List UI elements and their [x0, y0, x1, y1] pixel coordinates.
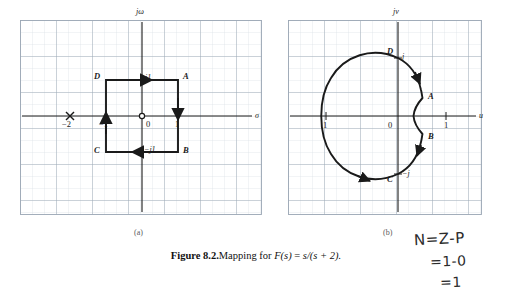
panel-a-tick-one: 1 [175, 120, 179, 129]
panel-b-tick-minus-j: −j [402, 170, 410, 178]
panel-b-point-D: D [387, 47, 393, 56]
panel-b-point-C: C [387, 175, 393, 184]
handwritten-annotation-line3: =1 [440, 274, 462, 291]
figure-caption-function: F(s) [274, 250, 292, 261]
panel-b-point-B: B [428, 132, 434, 141]
panel-b-jv-axis-label: jv [393, 8, 399, 16]
panel-a-point-B: B [183, 146, 189, 155]
panel-b-tick-one: 1 [444, 121, 448, 130]
handwritten-annotation-line1: N=Z-P [414, 229, 466, 250]
panel-a-tick-zero: 0 [146, 120, 150, 129]
panel-a-sigma-axis-label: σ [255, 112, 259, 120]
handwritten-annotation-line2: =1-0 [430, 252, 467, 269]
zero-circle-icon [139, 113, 144, 118]
panel-a-sub-caption: (a) [134, 228, 143, 237]
arrow-b-upper-right [415, 72, 420, 84]
panel-b-u-axis-label: u [479, 112, 483, 120]
panel-b-tick-minus-one: 1 [323, 121, 327, 130]
panel-a-s-plane: jω σ −2 −1 0 1 j1 −j1 D A C B [20, 20, 268, 220]
panel-a-plot [20, 20, 268, 220]
figure-caption-equals: = [292, 250, 303, 261]
panel-b-fs-plane: jv u 1 0 1 j −j D A B C [288, 20, 488, 220]
panel-b-point-A: A [428, 92, 434, 101]
panel-a-point-A: A [183, 72, 189, 81]
panel-b-tick-plus-j: j [402, 53, 404, 61]
panel-b-tick-zero: 0 [388, 121, 392, 130]
panel-b-sub-caption: (b) [383, 228, 392, 237]
figure-caption-text: Mapping for [219, 250, 274, 261]
figure-caption-expression: s/(s + 2). [303, 250, 341, 261]
panel-a-point-D: D [94, 72, 100, 81]
panel-a-tick-plus-j1: j1 [145, 74, 151, 82]
panel-a-tick-minus-j1: −j1 [144, 146, 156, 154]
panel-a-tick-minus-one: −1 [99, 120, 108, 129]
panel-a-tick-minus-two: −2 [62, 120, 71, 129]
panel-a-point-C: C [94, 146, 100, 155]
panel-a-jomega-axis-label: jω [136, 8, 144, 16]
figure-8-2: jω σ −2 −1 0 1 j1 −j1 D A C B (a) [0, 0, 512, 299]
figure-caption-number: Figure 8.2. [171, 250, 219, 261]
